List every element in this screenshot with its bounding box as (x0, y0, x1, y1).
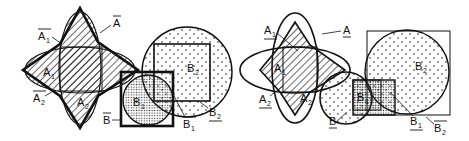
right-panel: A A 1 A 2 A 1 A 2 B B (240, 13, 450, 136)
svg-text:1: 1 (418, 122, 422, 129)
svg-text:B: B (103, 114, 110, 126)
svg-text:B: B (133, 96, 140, 108)
svg-text:A: A (38, 30, 46, 42)
label-b-bar: B (103, 113, 120, 126)
svg-text:1: 1 (46, 37, 50, 44)
left-panel: A A 1 A 2 A 1 A 2 B B (23, 8, 232, 132)
svg-text:1: 1 (191, 125, 195, 132)
label-a-underline: A (322, 24, 351, 37)
svg-text:A: A (43, 66, 51, 78)
svg-text:2: 2 (41, 99, 45, 106)
svg-text:B: B (209, 106, 216, 118)
svg-text:2: 2 (217, 113, 221, 120)
svg-text:1: 1 (365, 98, 369, 105)
svg-text:1: 1 (51, 73, 55, 80)
svg-text:A: A (264, 24, 272, 36)
svg-text:B: B (434, 122, 441, 134)
svg-text:B: B (357, 91, 364, 103)
svg-text:1: 1 (282, 69, 286, 76)
svg-text:1: 1 (141, 103, 145, 110)
label-a-bar: A (100, 16, 121, 33)
label-a1-bar: A 1 (38, 29, 62, 44)
svg-text:2: 2 (195, 69, 199, 76)
svg-text:2: 2 (85, 103, 89, 110)
svg-text:A: A (274, 62, 282, 74)
svg-text:A: A (300, 92, 308, 104)
svg-text:B: B (329, 115, 336, 127)
svg-text:B: B (187, 62, 194, 74)
svg-text:2: 2 (308, 99, 312, 106)
svg-text:2: 2 (442, 129, 446, 136)
svg-text:2: 2 (267, 100, 271, 107)
b1-circle (123, 75, 173, 125)
svg-text:A: A (113, 17, 121, 29)
svg-text:A: A (259, 93, 267, 105)
label-b2-bar: B 2 (426, 117, 447, 136)
label-a2-bar: A 2 (33, 90, 55, 106)
svg-text:A: A (33, 92, 41, 104)
svg-text:A: A (77, 96, 85, 108)
svg-text:A: A (343, 24, 351, 36)
svg-text:2: 2 (423, 67, 427, 74)
label-a2-region: A 2 (300, 92, 312, 106)
svg-text:1: 1 (272, 31, 276, 38)
set-approximation-diagram: A A 1 A 2 A 1 A 2 B B (0, 0, 469, 141)
svg-text:B: B (183, 118, 190, 130)
svg-text:B: B (410, 115, 417, 127)
svg-text:B: B (415, 60, 422, 72)
